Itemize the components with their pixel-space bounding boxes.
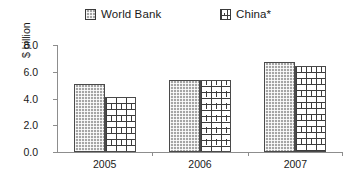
legend-item-world-bank[interactable]: World Bank bbox=[85, 6, 161, 22]
x-axis-label-2005: 2005 bbox=[57, 158, 152, 170]
y-axis-tick-label: 4.0 bbox=[0, 94, 38, 104]
bar-china--2005[interactable] bbox=[105, 97, 136, 152]
y-axis-tick-label: 6.0 bbox=[0, 67, 38, 77]
y-axis-tick bbox=[53, 72, 57, 73]
bar-china--2006[interactable] bbox=[200, 80, 231, 152]
y-axis-tick bbox=[53, 99, 57, 100]
bar-chart: World Bank China* $ billion 0.02.04.06.0… bbox=[0, 0, 354, 176]
y-axis-tick-label: 0.0 bbox=[0, 147, 38, 157]
legend-item-china[interactable]: China* bbox=[220, 6, 271, 22]
bar-world-bank-2007[interactable] bbox=[264, 62, 295, 152]
bar-china--2007[interactable] bbox=[295, 66, 326, 152]
y-axis-line bbox=[57, 45, 58, 152]
y-axis-tick bbox=[53, 45, 57, 46]
y-axis-tick bbox=[53, 125, 57, 126]
bar-world-bank-2006[interactable] bbox=[169, 80, 200, 152]
x-axis-label-2007: 2007 bbox=[248, 158, 343, 170]
chart-legend: World Bank China* bbox=[0, 6, 354, 28]
legend-swatch-china-icon bbox=[220, 9, 231, 20]
x-axis-line bbox=[57, 152, 343, 153]
x-axis-separator bbox=[342, 152, 343, 156]
legend-label-world-bank: World Bank bbox=[101, 8, 161, 21]
x-axis-label-2006: 2006 bbox=[152, 158, 247, 170]
x-axis-separator bbox=[248, 152, 249, 156]
y-axis-tick bbox=[53, 152, 57, 153]
y-axis-tick-label: 2.0 bbox=[0, 120, 38, 130]
x-axis-separator bbox=[152, 152, 153, 156]
y-axis-tick-label: 8.0 bbox=[0, 40, 38, 50]
legend-label-china: China* bbox=[236, 8, 271, 21]
plot-area: 0.02.04.06.08.0 200520062007 bbox=[57, 45, 343, 152]
bar-world-bank-2005[interactable] bbox=[74, 84, 105, 152]
legend-swatch-world-bank-icon bbox=[85, 9, 96, 20]
